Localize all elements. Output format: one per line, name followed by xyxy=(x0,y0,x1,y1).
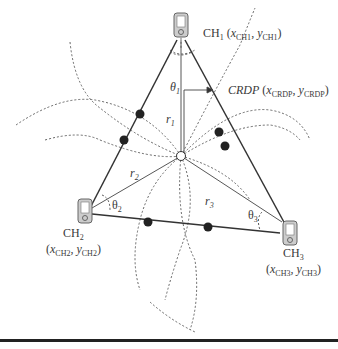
crdp-label: CRDP (xCRDP, yCRDP) xyxy=(228,83,329,99)
r2-label: r2 xyxy=(130,166,139,182)
theta3-label: θ3 xyxy=(248,208,258,224)
phone-icon-ch2 xyxy=(78,199,92,223)
radius-lines xyxy=(92,40,282,222)
ch2-label: CH2 (xCH2, yCH2) xyxy=(46,226,101,258)
diagram-graphics xyxy=(0,0,338,349)
theta1-label: θ1 xyxy=(170,80,180,96)
phone-icon-ch1 xyxy=(174,13,188,37)
crdp-point xyxy=(177,152,186,161)
theta2-label: θ2 xyxy=(112,198,122,214)
phone-icon-ch3 xyxy=(283,221,297,245)
ch1-label: CH1 (xCH1, yCH1) xyxy=(203,26,282,42)
ch3-label: CH3 (xCH3, yCH3) xyxy=(266,246,321,278)
diagram-canvas: CH1 (xCH1, yCH1) CRDP (xCRDP, yCRDP) CH2… xyxy=(0,0,338,349)
r1-label: r1 xyxy=(166,112,175,128)
range-arcs xyxy=(16,8,310,332)
bottom-rule xyxy=(0,339,338,342)
r3-label: r3 xyxy=(205,194,214,210)
